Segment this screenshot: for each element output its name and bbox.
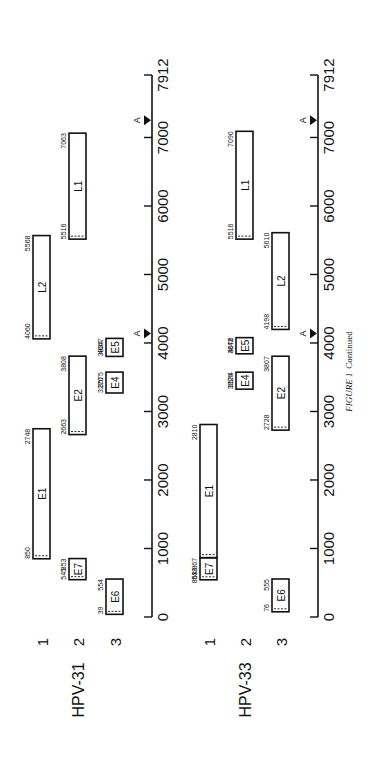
poly-a-triangle-icon: [310, 328, 317, 338]
orf-start-coordinate: 39: [97, 606, 104, 614]
axis-tick-label: 2000: [154, 463, 171, 496]
genome-name-label: HPV-33: [237, 662, 254, 717]
row-label: 3: [107, 638, 124, 646]
orf-label: E1: [204, 485, 215, 498]
genome-hpv-31: E655439E7853545E12748850E238082663E43575…: [24, 58, 171, 717]
poly-a-label: A: [132, 117, 142, 123]
orf-start-coordinate: 850: [24, 547, 31, 559]
orf-e7[interactable]: E7863/867543: [191, 558, 217, 583]
orf-start-coordinate: 5516: [227, 223, 234, 239]
orf-e4[interactable]: E435743326: [227, 372, 253, 389]
orf-start-coordinate: 2663: [60, 419, 67, 435]
axis-tick-label: 7000: [154, 121, 171, 154]
figure-caption: FIGURE 1Continued: [344, 331, 354, 413]
row-label: 2: [237, 638, 254, 646]
orf-label: E6: [110, 590, 121, 603]
orf-end-coordinate: 2810: [191, 424, 198, 440]
orf-start-coordinate: 3270: [97, 377, 104, 393]
orf-e1[interactable]: E12810: [191, 424, 217, 557]
poly-a-triangle-icon: [310, 115, 317, 125]
orf-e4[interactable]: E435753270: [97, 372, 123, 393]
axis-tick-label: 6000: [154, 189, 171, 222]
orf-label: L1: [73, 180, 84, 192]
orf-start-coordinate: 5516: [60, 223, 67, 239]
orf-label: L2: [37, 281, 48, 293]
axis-tick-label: 3000: [320, 395, 337, 428]
poly-a-label: A: [298, 117, 308, 123]
poly-a-label: A: [132, 330, 142, 336]
axis-tick-label: 0: [320, 613, 337, 621]
axis-tick-label: 4000: [320, 326, 337, 359]
orf-e2[interactable]: E238072728: [263, 356, 289, 430]
genome-hpv-33: E655576E7863/867543E12810E238072728E4357…: [191, 58, 337, 717]
axis-tick-label: 4000: [154, 326, 171, 359]
orf-label: E7: [73, 563, 84, 576]
orf-label: E2: [73, 389, 84, 402]
orf-l1[interactable]: L170905516: [227, 131, 253, 239]
orf-start-coordinate: 545: [60, 568, 67, 580]
poly-a-triangle-icon: [144, 115, 151, 125]
axis-tick-label: 6000: [320, 189, 337, 222]
orf-label: E5: [110, 341, 121, 354]
orf-start-coordinate: 3842: [227, 338, 234, 354]
orf-start-coordinate: 2728: [263, 414, 270, 430]
caption-label: FIGURE 1: [344, 372, 354, 412]
orf-e7[interactable]: E7853545: [60, 558, 86, 579]
row-label: 1: [34, 638, 51, 646]
orf-label: E7: [204, 562, 215, 575]
orf-end-coordinate: 7090: [227, 131, 234, 147]
orf-label: E4: [240, 374, 251, 387]
orf-label: E1: [37, 487, 48, 500]
orf-end-coordinate: 3807: [263, 356, 270, 372]
axis-tick-label: 3000: [154, 395, 171, 428]
orf-label: E6: [276, 589, 287, 602]
axis-tick-label: 2000: [320, 463, 337, 496]
orf-start-coordinate: 76: [263, 604, 270, 612]
axis-tick-label: 5000: [320, 258, 337, 291]
orf-e5[interactable]: E540673804: [97, 338, 123, 356]
orf-label: L2: [276, 275, 287, 287]
genome-map-svg: E655439E7853545E12748850E238082663E43575…: [0, 0, 391, 772]
orf-label: E4: [110, 376, 121, 389]
row-label: 3: [273, 638, 290, 646]
axis-tick-label: 7912: [320, 58, 337, 91]
orf-start-coordinate: 4060: [24, 323, 31, 339]
row-label: 1: [201, 638, 218, 646]
row-label: 2: [70, 638, 87, 646]
orf-end-coordinate: 5610: [263, 233, 270, 249]
orf-e5[interactable]: E540783842: [227, 338, 253, 354]
genome-map-figure: E655439E7853545E12748850E238082663E43575…: [0, 0, 391, 772]
orf-l2[interactable]: L256104198: [263, 233, 289, 330]
orf-end-coordinate: 2748: [24, 429, 31, 445]
orf-end-coordinate: 554: [97, 579, 104, 591]
axis-tick-label: 7000: [320, 121, 337, 154]
axis-tick-label: 1000: [154, 532, 171, 565]
orf-start-coordinate: 4198: [263, 314, 270, 330]
genome-name-label: HPV-31: [70, 662, 87, 717]
orf-e1[interactable]: E12748850: [24, 429, 50, 559]
orf-l2[interactable]: L255684060: [24, 235, 50, 338]
axis-tick-label: 0: [154, 613, 171, 621]
orf-e6[interactable]: E655576: [263, 579, 289, 612]
orf-start-coordinate: 3326: [227, 373, 234, 389]
axis-tick-label: 1000: [320, 532, 337, 565]
orf-e6[interactable]: E655439: [97, 579, 123, 614]
axis-tick-label: 7912: [154, 58, 171, 91]
orf-end-coordinate: 3808: [60, 356, 67, 372]
orf-e2[interactable]: E238082663: [60, 356, 86, 435]
orf-end-coordinate: 555: [263, 579, 270, 591]
orf-start-coordinate: 543: [191, 568, 198, 580]
caption-continued: Continued: [344, 331, 354, 369]
orf-label: E5: [240, 339, 251, 352]
orf-start-coordinate: 3804: [97, 341, 104, 357]
axis-tick-label: 5000: [154, 258, 171, 291]
orf-label: L1: [240, 179, 251, 191]
poly-a-triangle-icon: [144, 328, 151, 338]
poly-a-label: A: [298, 330, 308, 336]
orf-label: E2: [276, 387, 287, 400]
orf-l1[interactable]: L170635516: [60, 133, 86, 239]
orf-end-coordinate: 5568: [24, 235, 31, 251]
orf-end-coordinate: 7063: [60, 133, 67, 149]
